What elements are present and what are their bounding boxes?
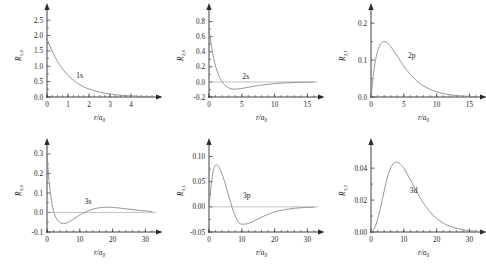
y-tick-label: 0.04 [354, 165, 367, 173]
y-tick-label: 0.0 [358, 94, 367, 102]
y-axis-label-2s: R2,0 [176, 50, 187, 62]
x-axis-label-3p: r/a0 [256, 248, 268, 258]
curve-label-3s: 3s [85, 197, 92, 206]
x-tick-label: 10 [400, 236, 408, 244]
plot-panel-1s: 012340.00.51.01.52.02.51sr/a0R1,0 [0, 0, 162, 135]
x-tick-label: 4 [129, 101, 133, 109]
curve-label-1s: 1s [76, 71, 83, 80]
x-tick-label: 0 [45, 101, 49, 109]
x-tick-label: 20 [109, 236, 117, 244]
y-tick-label: 1.0 [34, 63, 43, 71]
x-tick-label: 5 [402, 101, 406, 109]
x-axis-1s: 01234 [45, 93, 162, 108]
y-tick-label: -0.1 [32, 229, 44, 237]
x-tick-label: 30 [142, 236, 150, 244]
x-axis-label-2p: r/a0 [418, 113, 430, 123]
y-tick-label: 0.0 [196, 79, 205, 87]
x-tick-label: 10 [271, 101, 279, 109]
curve-2p [371, 42, 476, 97]
y-tick-label: 0.1 [358, 57, 367, 65]
x-tick-label: 0 [45, 236, 49, 244]
x-tick-label: 30 [304, 236, 312, 244]
x-axis-3p: 0102030 [207, 228, 324, 243]
x-axis-label-3s: r/a0 [94, 248, 106, 258]
x-tick-label: 15 [304, 101, 312, 109]
x-tick-label: 10 [238, 236, 246, 244]
plot-panel-3s: 0102030-0.10.00.10.20.33sr/a0R3,0 [0, 135, 162, 270]
x-axis-label-2s: r/a0 [256, 113, 268, 123]
curve-label-2p: 2p [408, 51, 416, 60]
curve-1s [47, 39, 152, 97]
x-axis-label-1s: r/a0 [94, 113, 106, 123]
y-tick-label: 2.5 [34, 17, 43, 25]
x-tick-label: 0 [207, 236, 211, 244]
x-tick-label: 3 [108, 101, 112, 109]
x-tick-label: 0 [369, 236, 373, 244]
y-tick-label: 0.6 [196, 33, 205, 41]
plot-panel-3p: 0102030-0.050.000.050.103pr/a0R3,1 [162, 135, 324, 270]
x-tick-label: 20 [433, 236, 441, 244]
y-tick-label: 0.0 [34, 94, 43, 102]
curve-3s [47, 154, 152, 224]
x-tick-label: 15 [466, 101, 474, 109]
y-tick-label: 0.5 [34, 78, 43, 86]
x-tick-label: 1 [66, 101, 70, 109]
y-tick-label: 0.2 [358, 20, 367, 28]
x-tick-label: 0 [207, 101, 211, 109]
x-tick-label: 0 [369, 101, 373, 109]
x-tick-label: 10 [433, 101, 441, 109]
y-tick-label: -0.05 [190, 229, 205, 237]
y-tick-label: 0.00 [354, 229, 367, 237]
y-axis-3p: -0.050.000.050.10 [190, 138, 213, 237]
x-axis-label-3d: r/a0 [418, 248, 430, 258]
y-axis-label-3p: R3,1 [176, 185, 187, 197]
curve-3p [209, 165, 314, 224]
y-axis-label-2p: R2,1 [338, 50, 349, 62]
y-tick-label: -0.2 [194, 94, 206, 102]
curve-2s [209, 29, 314, 89]
radial-wavefunction-figure: 012340.00.51.01.52.02.51sr/a0R1,0051015-… [0, 0, 486, 270]
y-tick-label: 0.0 [34, 209, 43, 217]
y-tick-label: 0.02 [354, 197, 367, 205]
y-tick-label: 0.4 [196, 48, 205, 56]
y-tick-label: 0.2 [196, 63, 205, 71]
curve-label-2s: 2s [242, 72, 249, 81]
plot-panel-3d: 01020300.000.020.043dr/a0R3,2 [324, 135, 486, 270]
y-tick-label: 0.2 [34, 170, 43, 178]
plot-panel-2p: 0510150.00.10.22pr/a0R2,1 [324, 0, 486, 135]
x-tick-label: 5 [240, 101, 244, 109]
y-tick-label: 0.1 [34, 190, 43, 198]
x-tick-label: 20 [271, 236, 279, 244]
y-axis-label-1s: R1,0 [14, 50, 25, 62]
y-tick-label: 0.10 [192, 153, 205, 161]
curve-3d [371, 162, 476, 232]
x-tick-label: 2 [87, 101, 91, 109]
y-tick-label: 0.3 [34, 150, 43, 158]
y-axis-3d: 0.000.020.04 [354, 138, 374, 237]
y-axis-2s: -0.20.00.20.40.60.8 [194, 3, 213, 102]
y-tick-label: 1.5 [34, 47, 43, 55]
y-tick-label: 0.00 [192, 203, 205, 211]
y-axis-label-3d: R3,2 [338, 185, 349, 197]
y-tick-label: 2.0 [34, 32, 43, 40]
y-axis-3s: -0.10.00.10.20.3 [32, 138, 51, 237]
curve-label-3d: 3d [410, 186, 418, 195]
y-axis-label-3s: R3,0 [14, 185, 25, 197]
curve-label-3p: 3p [243, 191, 251, 200]
x-tick-label: 30 [466, 236, 474, 244]
y-tick-label: 0.8 [196, 18, 205, 26]
x-tick-label: 10 [76, 236, 84, 244]
plot-panel-2s: 051015-0.20.00.20.40.60.82sr/a0R2,0 [162, 0, 324, 135]
x-axis-3s: 0102030 [45, 228, 162, 243]
x-axis-2s: 051015 [207, 93, 324, 108]
y-axis-1s: 0.00.51.01.52.02.5 [34, 3, 51, 102]
x-axis-2p: 051015 [369, 93, 486, 108]
y-tick-label: 0.05 [192, 178, 205, 186]
